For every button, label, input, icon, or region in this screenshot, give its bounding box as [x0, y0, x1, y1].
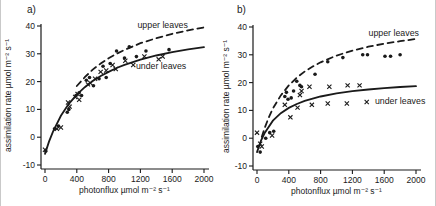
trend-line-dashed [77, 27, 204, 86]
panel-a-label: a) [27, 4, 36, 15]
x-marker [326, 101, 330, 105]
y-tick-label: 10 [26, 104, 36, 114]
x-axis-title: photonflux µmol m⁻² s⁻¹ [79, 185, 170, 195]
x-tick-label: 1200 [343, 175, 362, 185]
y-tick-label: 30 [238, 50, 248, 60]
x-marker [310, 103, 314, 107]
x-marker [99, 70, 103, 74]
y-axis-title: assimilation rate µmol m⁻² s⁻¹ [221, 40, 231, 153]
x-marker [77, 98, 81, 102]
dot-marker [341, 56, 345, 60]
x-ticks: 0400800120016002000 [43, 169, 214, 184]
x-marker [327, 85, 331, 89]
x-marker [299, 89, 303, 93]
axes [41, 24, 209, 169]
x-tick-label: 400 [70, 174, 84, 184]
panel-b: b) 403020100-100400800120016002000photon… [219, 0, 436, 206]
dot-marker [286, 97, 290, 101]
x-marker [104, 68, 108, 72]
y-axis-title: assimilation rate µmol m⁻² s⁻¹ [3, 39, 13, 152]
series-label: upper leaves [137, 20, 188, 30]
x-marker [357, 83, 361, 87]
series-under-leaves: under leaves [255, 83, 426, 152]
dot-marker [127, 45, 131, 49]
y-tick-label: 40 [238, 22, 248, 32]
series-label: upper leaves [369, 28, 420, 38]
x-marker [345, 101, 349, 105]
dot-marker [135, 55, 139, 59]
x-marker [346, 83, 350, 87]
x-tick-label: 1200 [131, 174, 150, 184]
x-tick-label: 800 [102, 174, 116, 184]
x-marker [131, 63, 135, 67]
y-tick-label: 0 [242, 133, 247, 143]
panel-a: a) 403020100-100400800120016002000photon… [1, 0, 219, 206]
dot-marker [366, 53, 370, 57]
y-tick-label: 30 [26, 49, 36, 59]
series-label: under leaves [375, 96, 426, 106]
dot-marker [398, 53, 402, 57]
dot-marker [104, 76, 108, 80]
series-upper-leaves: upper leaves [256, 28, 420, 154]
series-label: under leaves [136, 61, 187, 71]
dot-marker [85, 78, 89, 82]
x-marker [295, 106, 299, 110]
x-ticks: 0400800120016002000 [255, 170, 426, 185]
dot-marker [144, 49, 148, 53]
dot-marker [289, 96, 293, 100]
x-marker [288, 115, 292, 119]
x-marker [298, 93, 302, 97]
panel-a-chart: 403020100-100400800120016002000photonflu… [1, 0, 219, 206]
y-tick-label: 10 [238, 105, 248, 115]
x-tick-label: 1600 [163, 174, 182, 184]
dot-marker [285, 91, 289, 95]
x-marker [283, 103, 287, 107]
dot-marker [326, 60, 330, 64]
x-marker [307, 85, 311, 89]
y-tick-label: 40 [26, 21, 36, 31]
dot-marker [389, 54, 393, 58]
x-marker [255, 131, 259, 135]
data-points [255, 83, 369, 148]
dot-marker [283, 95, 287, 99]
panel-b-label: b) [237, 4, 246, 15]
dot-marker [167, 48, 171, 52]
y-ticks: 403020100-10 [23, 21, 41, 170]
dot-marker [272, 129, 276, 133]
dot-marker [264, 136, 268, 140]
dot-marker [313, 72, 317, 76]
x-marker [161, 54, 165, 58]
y-tick-label: -10 [23, 160, 36, 170]
x-tick-label: 400 [282, 175, 296, 185]
dot-marker [258, 150, 262, 154]
dot-marker [292, 89, 296, 93]
y-tick-label: 0 [30, 132, 35, 142]
panel-b-chart: 403020100-100400800120016002000photonflu… [219, 0, 436, 206]
y-tick-label: -10 [235, 161, 248, 171]
x-tick-label: 800 [314, 175, 328, 185]
y-tick-label: 20 [238, 78, 248, 88]
x-tick-label: 2000 [195, 174, 214, 184]
dot-marker [300, 85, 304, 89]
series-upper-leaves: upper leaves [44, 20, 204, 153]
x-tick-label: 0 [255, 175, 260, 185]
x-axis-title: photonflux µmol m⁻² s⁻¹ [291, 186, 382, 196]
y-ticks: 403020100-10 [235, 22, 253, 171]
dot-marker [115, 49, 119, 53]
dot-marker [80, 94, 84, 98]
dot-marker [295, 79, 299, 83]
dot-marker [361, 53, 365, 57]
series-under-leaves: under leaves [43, 47, 204, 154]
dot-marker [88, 76, 92, 80]
x-tick-label: 2000 [407, 175, 426, 185]
x-marker [270, 133, 274, 137]
x-tick-label: 1600 [375, 175, 394, 185]
x-tick-label: 0 [43, 174, 48, 184]
dot-marker [383, 54, 387, 58]
figure: a) 403020100-100400800120016002000photon… [0, 0, 436, 206]
dot-marker [101, 65, 105, 69]
y-tick-label: 20 [26, 77, 36, 87]
x-marker [365, 100, 369, 104]
